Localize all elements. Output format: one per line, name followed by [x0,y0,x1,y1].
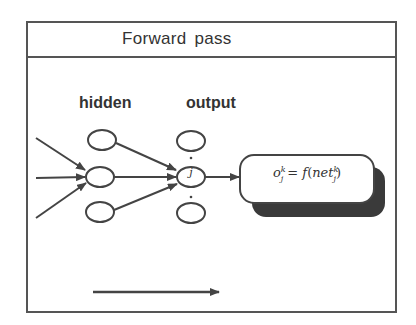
hidden-node-2 [86,167,114,187]
hidden-node-3 [86,202,114,222]
ellipsis-dot-upper [190,157,193,160]
output-node-3 [177,203,205,223]
formula-output-symbol: o [273,165,281,180]
hidden-layer [86,130,116,222]
arrow-h3-oj [114,184,177,210]
hidden-label: hidden [79,94,131,112]
input-arrow-top [36,138,85,170]
ellipsis-dot-lower [190,196,193,199]
input-arrows [36,138,86,218]
hidden-output-arrows [114,143,177,210]
activation-formula: okj = f(netkj) [240,165,374,183]
input-arrow-middle [36,177,85,178]
input-arrow-bottom [36,183,86,218]
output-node-1 [177,131,205,151]
output-label: output [186,94,236,112]
formula-equals: = [283,165,302,180]
arrow-h1-oj [116,143,176,170]
hidden-node-1 [88,130,116,150]
formula-close-paren: ) [336,165,341,180]
network-diagram [0,0,416,325]
formula-net: net [312,165,333,180]
node-index-j: j [185,166,197,179]
